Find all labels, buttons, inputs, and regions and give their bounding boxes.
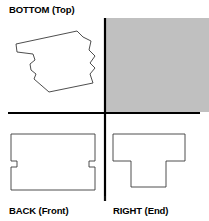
label-bottom-top: BOTTOM (Top) [9,4,74,15]
right-end-view-outline [113,134,185,187]
bottom-top-view-outline [16,31,95,92]
vertical-axis-tick-mark [104,196,106,201]
diagram-canvas [0,0,209,221]
quadrant-top-right-gray-panel [106,18,209,112]
label-right-end: RIGHT (End) [113,205,168,216]
back-front-view-outline [11,134,95,190]
label-back-front: BACK (Front) [9,205,68,216]
orthographic-projection-diagram: BOTTOM (Top) BACK (Front) RIGHT (End) [0,0,209,221]
